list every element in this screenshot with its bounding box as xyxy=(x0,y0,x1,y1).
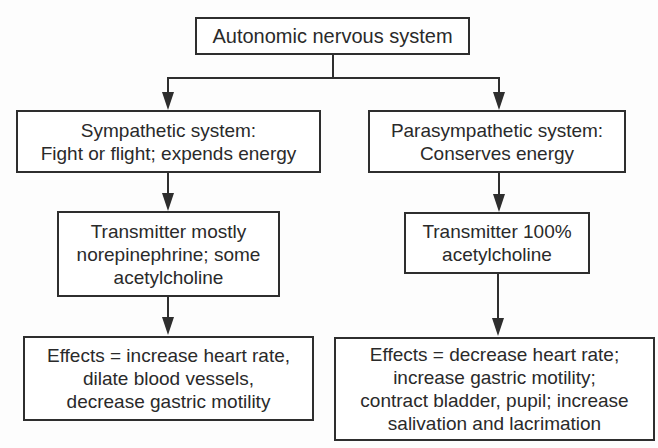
arrow-down-icon xyxy=(492,318,504,336)
connector-sym-2 xyxy=(167,297,169,319)
node-parasympathetic-effects: Effects = decrease heart rate; increase … xyxy=(334,337,655,441)
arrow-down-icon xyxy=(162,193,174,211)
arrow-down-icon xyxy=(162,92,174,110)
node-text: acetylcholine xyxy=(114,266,224,289)
node-parasympathetic-transmitter: Transmitter 100% acetylcholine xyxy=(404,212,590,274)
node-sympathetic-effects: Effects = increase heart rate, dilate bl… xyxy=(23,336,314,421)
node-sympathetic-system: Sympathetic system: Fight or flight; exp… xyxy=(16,110,321,173)
node-text: Fight or flight; expends energy xyxy=(41,142,297,165)
node-text: Autonomic nervous system xyxy=(212,25,452,48)
node-sympathetic-transmitter: Transmitter mostly norepinephrine; some … xyxy=(57,211,280,297)
node-text: Transmitter mostly xyxy=(91,220,247,243)
connector-root-down xyxy=(332,55,334,79)
node-text: increase gastric motility; xyxy=(393,366,596,389)
node-text: decrease gastric motility xyxy=(67,390,271,413)
node-parasympathetic-system: Parasympathetic system: Conserves energy xyxy=(368,110,626,173)
node-text: Effects = increase heart rate, xyxy=(47,344,290,367)
node-text: salivation and lacrimation xyxy=(388,412,601,435)
node-text: Transmitter 100% xyxy=(422,220,571,243)
node-text: dilate blood vessels, xyxy=(83,367,254,390)
node-text: Effects = decrease heart rate; xyxy=(370,343,619,366)
arrow-down-icon xyxy=(493,194,505,212)
node-text: Parasympathetic system: xyxy=(391,119,603,142)
node-text: Conserves energy xyxy=(420,142,574,165)
connector-para-2 xyxy=(497,274,499,320)
node-text: contract bladder, pupil; increase xyxy=(360,389,628,412)
node-text: norepinephrine; some xyxy=(77,243,261,266)
arrow-down-icon xyxy=(493,92,505,110)
node-text: acetylcholine xyxy=(442,243,552,266)
root-node-autonomic: Autonomic nervous system xyxy=(195,17,470,55)
connector-para-1 xyxy=(498,173,500,195)
connector-sym-1 xyxy=(167,173,169,195)
arrow-down-icon xyxy=(162,317,174,335)
connector-horizontal xyxy=(167,77,500,79)
node-text: Sympathetic system: xyxy=(81,119,256,142)
